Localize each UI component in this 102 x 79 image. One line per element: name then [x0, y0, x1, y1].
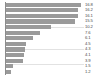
bar — [6, 25, 51, 29]
bar — [6, 64, 13, 68]
bar — [6, 14, 78, 18]
bar — [6, 8, 78, 12]
bar — [6, 47, 25, 51]
bar — [6, 19, 75, 23]
bar-rows: 16.816.216.115.510.27.66.14.54.34.13.91.… — [6, 2, 102, 75]
bar — [6, 31, 40, 35]
bar — [6, 53, 24, 57]
horizontal-bar-chart: 16.816.216.115.510.27.66.14.54.34.13.91.… — [0, 0, 102, 79]
bar-track — [6, 69, 84, 75]
bar — [6, 3, 81, 7]
bar-value-label: 1.2 — [85, 69, 91, 75]
bar — [6, 59, 23, 63]
bar-row: 1.2 — [6, 69, 102, 75]
bar — [6, 70, 11, 74]
bar — [6, 36, 33, 40]
plot-area: 16.816.216.115.510.27.66.14.54.34.13.91.… — [5, 2, 102, 77]
bar — [6, 42, 26, 46]
